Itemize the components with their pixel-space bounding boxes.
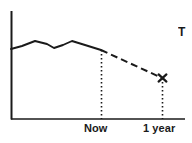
x-marker-icon xyxy=(159,74,167,81)
projection-series-line xyxy=(101,50,162,78)
truncated-side-text: T xyxy=(178,25,192,39)
x-tick-label-one-year: 1 year xyxy=(143,122,175,134)
chart-screenshot: Now 1 year T xyxy=(0,0,192,143)
historical-series-line xyxy=(11,41,101,50)
x-tick-label-now: Now xyxy=(84,122,108,134)
